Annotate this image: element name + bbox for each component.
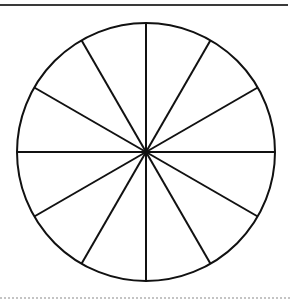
bottom-dotted-rule	[0, 297, 290, 299]
divided-circle-diagram	[0, 0, 290, 301]
